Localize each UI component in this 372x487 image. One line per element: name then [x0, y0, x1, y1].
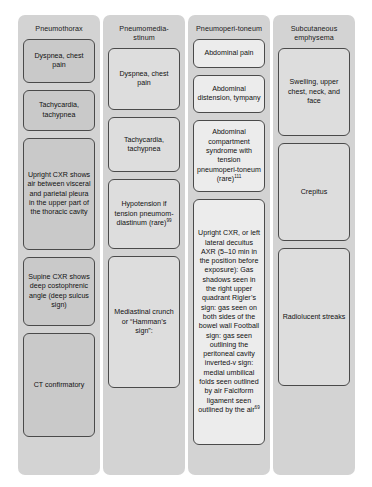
box-text: Swelling, upper chest, neck, and face: [282, 78, 346, 106]
box-text: Upright CXR shows air between visceral a…: [27, 171, 91, 217]
box-text: Abdominal distension, tympany: [197, 85, 261, 104]
column-header-subcutaneous-emphysema: Subcutaneous emphysema: [278, 22, 350, 48]
box-text: Hypotension if tension pneumom-diastinum…: [114, 200, 173, 227]
diagram-columns: Pneumothorax Dyspnea, chest pain Tachyca…: [18, 15, 358, 475]
box-text: Dyspnea, chest pain: [112, 70, 176, 89]
box-text: Abdominal pain: [197, 49, 261, 58]
box-pneumoperitoneum-4: Upright CXR, or left lateral decuitus AX…: [193, 199, 265, 445]
box-text: Tachycardia, tachypnea: [27, 101, 91, 120]
box-text: Abdominal compartment syndrome with tens…: [197, 128, 261, 182]
citation-superscript: 111: [234, 173, 241, 178]
box-subcutaneous-emphysema-2: Crepitus: [278, 143, 350, 241]
column-pneumomediastinum: Pneumomedia-stinum Dyspnea, chest pain T…: [103, 15, 185, 475]
box-pneumothorax-2: Tachycardia, tachypnea: [23, 90, 95, 131]
box-pneumoperitoneum-3: Abdominal compartment syndrome with tens…: [193, 120, 265, 192]
column-pneumothorax: Pneumothorax Dyspnea, chest pain Tachyca…: [18, 15, 100, 475]
box-subcutaneous-emphysema-3: Radiolucent streaks: [278, 248, 350, 386]
column-header-pneumoperitoneum: Pneumoperi-toneum: [193, 22, 265, 39]
box-text: Mediastinal crunch or “Hamman’s sign”:: [112, 308, 176, 336]
box-pneumoperitoneum-2: Abdominal distension, tympany: [193, 75, 265, 113]
box-pneumothorax-4: Supine CXR shows deep costophrenic angle…: [23, 257, 95, 326]
clinical-signs-comparison-diagram: Pneumothorax Dyspnea, chest pain Tachyca…: [0, 0, 372, 487]
box-text: Upright CXR, or left lateral decuitus AX…: [198, 229, 260, 414]
box-text: CT confirmatory: [27, 381, 91, 390]
box-pneumothorax-1: Dyspnea, chest pain: [23, 39, 95, 83]
box-text: Crepitus: [282, 188, 346, 197]
box-pneumothorax-5: CT confirmatory: [23, 333, 95, 437]
box-pneumomediastinum-4: Mediastinal crunch or “Hamman’s sign”:: [108, 256, 180, 388]
column-header-pneumomediastinum: Pneumomedia-stinum: [108, 22, 180, 48]
column-pneumoperitoneum: Pneumoperi-toneum Abdominal pain Abdomin…: [188, 15, 270, 475]
column-subcutaneous-emphysema: Subcutaneous emphysema Swelling, upper c…: [273, 15, 355, 475]
box-text: Radiolucent streaks: [282, 313, 346, 322]
box-pneumomediastinum-2: Tachycardia, tachypnea: [108, 117, 180, 172]
box-pneumomediastinum-1: Dyspnea, chest pain: [108, 48, 180, 110]
box-text: Tachycardia, tachypnea: [112, 136, 176, 155]
box-subcutaneous-emphysema-1: Swelling, upper chest, neck, and face: [278, 48, 350, 136]
box-pneumomediastinum-3: Hypotension if tension pneumom-diastinum…: [108, 179, 180, 249]
column-header-pneumothorax: Pneumothorax: [23, 22, 95, 39]
box-text: Supine CXR shows deep costophrenic angle…: [27, 273, 91, 310]
citation-superscript: 69: [255, 405, 260, 410]
citation-superscript: 99: [166, 218, 171, 223]
box-pneumoperitoneum-1: Abdominal pain: [193, 39, 265, 68]
box-pneumothorax-3: Upright CXR shows air between visceral a…: [23, 138, 95, 250]
box-text: Dyspnea, chest pain: [27, 52, 91, 71]
